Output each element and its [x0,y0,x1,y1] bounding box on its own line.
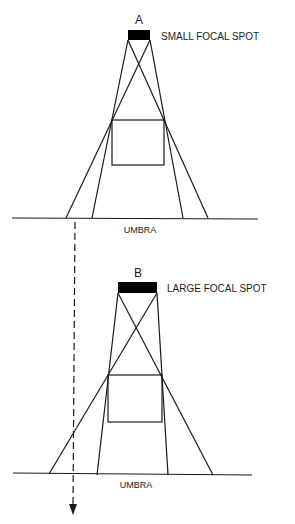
image-plane-b [13,473,252,475]
ray-b-inner-right [157,293,168,475]
ray-a-outer-right [128,40,208,218]
arrow-head-icon [69,504,77,515]
large-focal-spot-label: LARGE FOCAL SPOT [167,283,267,294]
object-b [108,375,162,422]
large-focal-spot [118,282,157,293]
small-focal-spot [128,30,150,40]
umbra-label-b: UMBRA [120,480,153,490]
focal-spot-diagram: A SMALL FOCAL SPOT UMBRA B LARGE FOCAL S… [0,0,295,524]
ray-a-outer-left [66,40,150,218]
ray-a-inner-right [150,40,183,218]
panel-b: B LARGE FOCAL SPOT UMBRA [13,266,267,490]
umbra-label-a: UMBRA [124,225,157,235]
ray-b-outer-left [49,293,157,474]
small-focal-spot-label: SMALL FOCAL SPOT [161,31,259,42]
ray-a-inner-left [92,40,128,218]
dashed-arrow [69,222,77,515]
ray-b-inner-left [97,293,118,475]
ray-b-outer-right [118,293,213,475]
panel-b-letter: B [134,266,142,280]
image-plane-a [12,218,258,219]
object-a [112,120,164,165]
panel-a: A SMALL FOCAL SPOT UMBRA [12,13,259,235]
panel-a-letter: A [135,13,143,27]
